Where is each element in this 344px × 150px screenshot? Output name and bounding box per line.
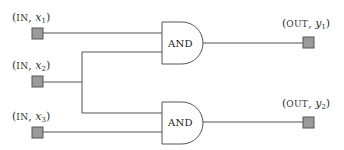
- input-label-x3: (IN, x3): [12, 110, 50, 124]
- port-kind: IN: [16, 112, 28, 122]
- input-port-x2[interactable]: [32, 76, 43, 87]
- output-port-y1[interactable]: [303, 37, 314, 48]
- input-port-x1[interactable]: [32, 28, 43, 39]
- output-port-y2[interactable]: [303, 117, 314, 128]
- port-kind: IN: [16, 13, 28, 23]
- and-gate-1[interactable]: AND: [162, 22, 203, 64]
- port-kind: OUT: [286, 19, 308, 29]
- paren-close: ): [46, 59, 50, 72]
- paren-close: ): [326, 17, 330, 30]
- input-label-x2: (IN, x2): [12, 59, 50, 73]
- gate-label: AND: [167, 117, 193, 128]
- gate-label: AND: [167, 38, 193, 49]
- paren-close: ): [46, 11, 50, 24]
- port-kind: OUT: [286, 99, 308, 109]
- paren-close: ): [46, 110, 50, 123]
- paren-close: ): [326, 97, 330, 110]
- and-gate-2[interactable]: AND: [162, 102, 203, 144]
- port-kind: IN: [16, 61, 28, 71]
- output-label-y1: (OUT, y1): [282, 17, 330, 31]
- input-label-x1: (IN, x1): [12, 11, 50, 25]
- input-port-x3[interactable]: [32, 127, 43, 138]
- output-label-y2: (OUT, y2): [282, 97, 330, 111]
